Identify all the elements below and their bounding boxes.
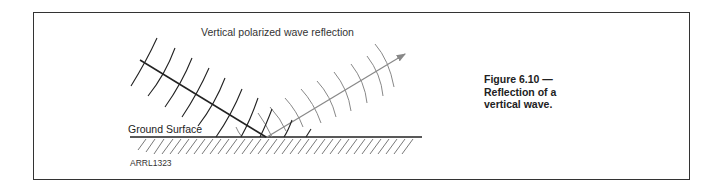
reflected-ray	[267, 54, 405, 137]
diagram-title: Vertical polarized wave reflection	[201, 26, 354, 38]
ground-surface-label: Ground Surface	[128, 123, 202, 135]
ground-hatching	[138, 139, 413, 154]
caption-line-1: Figure 6.10 —	[484, 73, 556, 86]
caption-line-3: vertical wave.	[484, 98, 556, 111]
figure-caption: Figure 6.10 — Reflection of a vertical w…	[484, 73, 556, 111]
caption-line-2: Reflection of a	[484, 86, 556, 99]
reflection-diagram	[0, 0, 718, 194]
reflected-wavefronts	[236, 44, 394, 137]
figure-code: ARRL1323	[130, 158, 172, 168]
